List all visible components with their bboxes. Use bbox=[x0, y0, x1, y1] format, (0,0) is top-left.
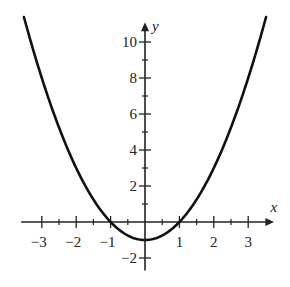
y-axis-label: y bbox=[150, 18, 159, 34]
x-axis-label: x bbox=[270, 199, 278, 215]
y-axis-arrow-icon bbox=[141, 22, 149, 31]
x-tick-label: 2 bbox=[210, 234, 218, 250]
y-tick-label: 4 bbox=[130, 142, 138, 158]
y-tick-label: 2 bbox=[130, 178, 138, 194]
y-tick-label: 10 bbox=[122, 34, 137, 50]
x-axis-arrow-icon bbox=[265, 218, 274, 226]
x-tick-label: 3 bbox=[244, 234, 252, 250]
y-tick-label: 6 bbox=[130, 106, 138, 122]
x-tick-label: −2 bbox=[65, 234, 81, 250]
x-tick-label: −1 bbox=[100, 234, 116, 250]
x-tick-label: −3 bbox=[31, 234, 47, 250]
y-tick-label: −2 bbox=[121, 250, 137, 266]
y-tick-label: 8 bbox=[130, 70, 138, 86]
x-tick-label: 1 bbox=[176, 234, 184, 250]
parabola-plot: −3−2−1123108642−2xy bbox=[0, 0, 290, 287]
